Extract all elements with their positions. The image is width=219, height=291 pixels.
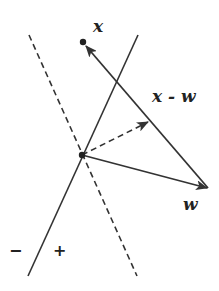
x-minus-w-arrow bbox=[86, 46, 208, 188]
w-arrow bbox=[82, 155, 207, 188]
label-minus: − bbox=[9, 243, 22, 259]
origin-point bbox=[79, 152, 85, 158]
x-point bbox=[80, 39, 86, 45]
label-w: w bbox=[183, 196, 198, 213]
vector-diagram bbox=[0, 0, 219, 291]
label-x-minus-w: x - w bbox=[152, 88, 196, 105]
label-x: x bbox=[93, 18, 103, 35]
label-plus: + bbox=[53, 243, 66, 259]
projection-arrow bbox=[82, 122, 148, 155]
